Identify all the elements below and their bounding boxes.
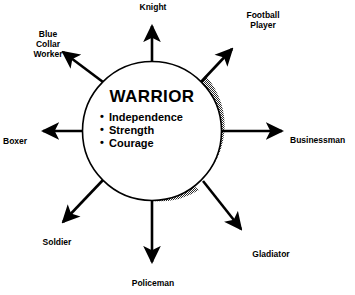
center-content: WARRIOR Independence Strength Courage: [86, 88, 218, 150]
trait-item: Courage: [100, 137, 218, 150]
node-label-football-player-line: Player: [222, 20, 304, 30]
node-label-businessman-line: Businessman: [290, 135, 355, 145]
trait-item: Strength: [100, 124, 218, 137]
trait-item: Independence: [100, 111, 218, 124]
node-label-soldier: Soldier: [22, 237, 92, 247]
node-label-knight: Knight: [108, 2, 198, 12]
node-label-policeman: Policeman: [108, 278, 198, 288]
node-label-blue-collar-worker-line: Collar: [18, 39, 78, 49]
arrow-gladiator: [203, 181, 241, 229]
trait-list: Independence Strength Courage: [86, 111, 218, 150]
node-label-soldier-line: Soldier: [22, 237, 92, 247]
node-label-boxer: Boxer: [3, 136, 43, 146]
warrior-archetype-diagram: WARRIOR Independence Strength Courage Kn…: [0, 0, 355, 295]
arrow-soldier: [63, 180, 103, 222]
node-label-policeman-line: Policeman: [108, 278, 198, 288]
node-label-gladiator-line: Gladiator: [236, 249, 306, 259]
node-label-blue-collar-worker: Blue Collar Worker: [18, 29, 78, 59]
node-label-knight-line: Knight: [108, 2, 198, 12]
center-title: WARRIOR: [86, 88, 218, 105]
node-label-boxer-line: Boxer: [3, 136, 43, 146]
node-label-blue-collar-worker-line: Worker: [18, 49, 78, 59]
node-label-football-player-line: Football: [222, 10, 304, 20]
node-label-blue-collar-worker-line: Blue: [18, 29, 78, 39]
node-label-gladiator: Gladiator: [236, 249, 306, 259]
node-label-businessman: Businessman: [290, 135, 355, 145]
node-label-football-player: Football Player: [222, 10, 304, 30]
arrow-football-player: [201, 49, 232, 82]
